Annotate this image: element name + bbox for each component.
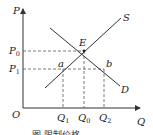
q1-label: Q1 (57, 112, 69, 125)
x-axis-label: Q (137, 116, 145, 127)
origin-label: O (12, 109, 20, 120)
equilibrium-point (83, 50, 86, 53)
equilibrium-label: E (78, 37, 87, 48)
point-b-label: b (106, 58, 112, 69)
supply-demand-diagram: P Q O S D E a b P0 P1 Q1 Q0 Q2 图 限制价格 (0, 0, 153, 135)
supply-label: S (123, 12, 130, 23)
p1-label: P1 (8, 63, 20, 76)
y-axis-label: P (12, 5, 20, 16)
figure-caption: 图 限制价格 (32, 129, 80, 135)
q2-label: Q2 (99, 112, 111, 125)
q0-label: Q0 (78, 112, 90, 125)
point-a-label: a (58, 58, 64, 69)
p0-label: P0 (8, 45, 20, 58)
demand-label: D (120, 84, 129, 95)
